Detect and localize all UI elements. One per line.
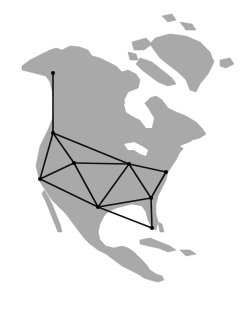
cuba — [140, 238, 176, 252]
network-node-west-coast — [38, 177, 42, 181]
network-node-mountain — [72, 161, 76, 165]
arctic-island-2 — [128, 52, 138, 60]
bahamas — [158, 222, 164, 232]
greenland — [150, 34, 214, 92]
arctic-island-1 — [132, 38, 152, 50]
arctic-island-3 — [162, 14, 176, 22]
network-edge — [151, 198, 152, 228]
network-node-great-lakes — [127, 162, 131, 166]
network-edge — [74, 163, 129, 164]
hispaniola — [180, 250, 196, 256]
network-node-southeast — [149, 196, 153, 200]
network-node-northeast — [164, 170, 168, 174]
network-node-northwest — [51, 131, 55, 135]
network-edge — [98, 207, 152, 228]
north-america-network-map — [0, 0, 247, 316]
network-node-alaska — [51, 71, 55, 75]
network-node-gulf — [96, 205, 100, 209]
network-node-florida — [150, 226, 154, 230]
arctic-island-4 — [180, 22, 196, 30]
iceland — [220, 58, 234, 68]
